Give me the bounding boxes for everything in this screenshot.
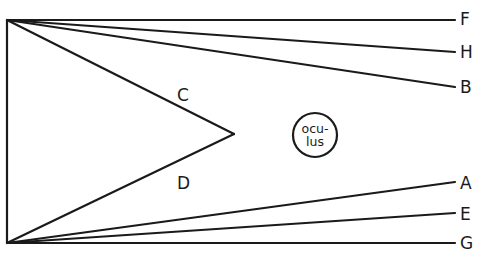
label-H: H <box>460 44 473 61</box>
oculus-label: ocu- lus <box>293 122 337 148</box>
label-G: G <box>460 235 473 252</box>
label-D: D <box>177 175 190 192</box>
diagram-lines <box>0 0 481 270</box>
line-A <box>7 182 455 243</box>
label-C: C <box>177 87 189 104</box>
line-E <box>7 213 455 243</box>
label-A: A <box>460 175 472 192</box>
label-E: E <box>460 206 471 223</box>
label-B: B <box>460 79 472 96</box>
line-H <box>7 20 455 52</box>
oculus-label-line2: lus <box>293 135 337 148</box>
diagram: F H B C D A E G ocu- lus <box>0 0 481 270</box>
label-F: F <box>460 11 470 28</box>
